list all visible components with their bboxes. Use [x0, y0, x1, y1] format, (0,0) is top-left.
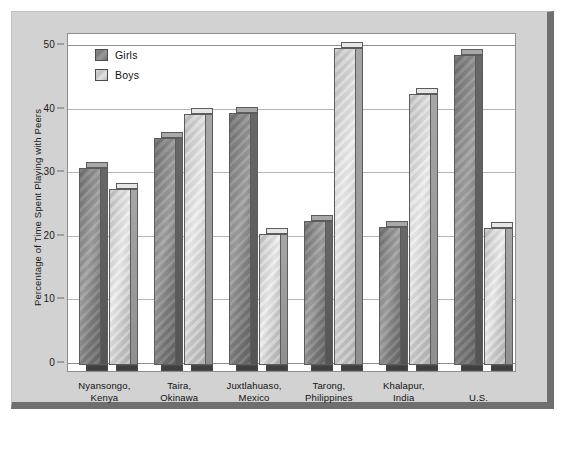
- bar-boys[interactable]: [259, 36, 281, 371]
- x-axis-label-line: Taira,: [142, 380, 217, 392]
- x-axis-label-line: India: [366, 392, 441, 404]
- bar-boys[interactable]: [409, 36, 431, 371]
- bar-side-face: [281, 234, 288, 365]
- legend-label: Boys: [115, 69, 139, 81]
- bar-bottom-face: [386, 365, 408, 371]
- bar-side-face: [506, 228, 513, 365]
- bar-bottom-face: [266, 365, 288, 371]
- bar-side-face: [326, 221, 333, 365]
- bar-front-face: [79, 168, 101, 365]
- y-axis-title: Percentage of Time Spent Playing with Pe…: [32, 58, 43, 358]
- bar-bottom-face: [86, 365, 108, 371]
- bar-front-face: [484, 228, 506, 365]
- bar-bottom-face: [236, 365, 258, 371]
- bar-girls[interactable]: [379, 36, 401, 371]
- x-axis-label-line: Juxtlahuaso,: [217, 380, 292, 392]
- bar-boys[interactable]: [334, 36, 356, 371]
- bar-side-face: [431, 94, 438, 365]
- bar-group: [442, 34, 517, 371]
- legend-swatch-boys-icon: [95, 69, 108, 81]
- bar-bottom-face: [311, 365, 333, 371]
- legend-item-girls[interactable]: Girls: [95, 47, 139, 62]
- x-axis-label-line: Philippines: [292, 392, 367, 404]
- y-tick-mark-10: [57, 298, 64, 299]
- chart-legend: GirlsBoys: [95, 47, 139, 87]
- y-tick-label-10: 10: [43, 293, 55, 304]
- y-tick-mark-30: [57, 171, 64, 172]
- bar-side-face: [356, 48, 363, 365]
- bar-side-face: [476, 55, 483, 365]
- bar-front-face: [334, 48, 356, 365]
- legend-label: Girls: [115, 49, 138, 61]
- y-tick-label-0: 0: [49, 357, 55, 368]
- x-axis-label-line: Okinawa: [142, 392, 217, 404]
- bar-front-face: [454, 55, 476, 365]
- y-tick-mark-0: [57, 362, 64, 363]
- bar-side-face: [206, 114, 213, 365]
- bar-group: [143, 34, 218, 371]
- bar-bottom-face: [491, 365, 513, 371]
- x-axis-label: Nyansongo,Kenya: [67, 380, 142, 404]
- bar-bottom-face: [161, 365, 183, 371]
- bar-group: [367, 34, 442, 371]
- bar-girls[interactable]: [154, 36, 176, 371]
- bar-bottom-face: [461, 365, 483, 371]
- bar-front-face: [259, 234, 281, 365]
- bar-front-face: [109, 189, 131, 365]
- bar-front-face: [409, 94, 431, 365]
- x-axis-label: Juxtlahuaso,Mexico: [217, 380, 292, 404]
- bar-side-face: [401, 227, 408, 365]
- bar-bottom-face: [341, 365, 363, 371]
- y-tick-mark-20: [57, 234, 64, 235]
- bar-side-face: [131, 189, 138, 365]
- y-tick-label-40: 40: [43, 102, 55, 113]
- bar-front-face: [154, 138, 176, 365]
- x-axis-label-line: Tarong,: [292, 380, 367, 392]
- y-tick-mark-40: [57, 107, 64, 108]
- legend-item-boys[interactable]: Boys: [95, 67, 139, 82]
- bar-side-face: [251, 113, 258, 365]
- x-axis-label-line: Mexico: [217, 392, 292, 404]
- bar-front-face: [229, 113, 251, 365]
- bar-front-face: [379, 227, 401, 365]
- bar-front-face: [304, 221, 326, 365]
- x-axis-label: Tarong,Philippines: [292, 380, 367, 404]
- y-tick-label-20: 20: [43, 229, 55, 240]
- y-tick-mark-50: [57, 44, 64, 45]
- bar-bottom-face: [116, 365, 138, 371]
- bar-front-face: [184, 114, 206, 365]
- y-tick-label-30: 30: [43, 166, 55, 177]
- bar-girls[interactable]: [304, 36, 326, 371]
- bar-group: [293, 34, 368, 371]
- legend-swatch-girls-icon: [95, 49, 108, 61]
- bar-bottom-face: [416, 365, 438, 371]
- x-axis-label-line: Khalapur,: [366, 380, 441, 392]
- bar-group: [218, 34, 293, 371]
- y-tick-label-50: 50: [43, 39, 55, 50]
- bar-girls[interactable]: [454, 36, 476, 371]
- x-axis-label-line: U.S.: [441, 392, 516, 404]
- x-axis-labels: Nyansongo,KenyaTaira,OkinawaJuxtlahuaso,…: [67, 380, 516, 416]
- bar-side-face: [101, 168, 108, 365]
- x-axis-label-line: Nyansongo,: [67, 380, 142, 392]
- bar-boys[interactable]: [484, 36, 506, 371]
- x-axis-label: Taira,Okinawa: [142, 380, 217, 404]
- bar-boys[interactable]: [184, 36, 206, 371]
- bar-girls[interactable]: [229, 36, 251, 371]
- x-axis-label-line: Kenya: [67, 392, 142, 404]
- x-axis-label: U.S.: [441, 392, 516, 404]
- bar-bottom-face: [191, 365, 213, 371]
- chart-figure: 01020304050 Percentage of Time Spent Pla…: [11, 11, 554, 409]
- figure-background: 01020304050 Percentage of Time Spent Pla…: [12, 12, 547, 402]
- bar-side-face: [176, 138, 183, 365]
- x-axis-label: Khalapur,India: [366, 380, 441, 404]
